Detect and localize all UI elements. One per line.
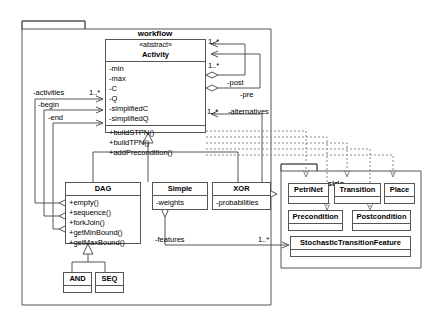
package-label-workflow: workflow xyxy=(105,29,205,38)
class-dag-operations: +empty() +sequence() +forkJoin() +getMin… xyxy=(66,195,140,249)
attribute-probabilities: -probabilities xyxy=(216,198,267,208)
class-and-attributes xyxy=(64,285,91,292)
label-features: -features xyxy=(155,235,185,244)
label-mult-features: 1..* xyxy=(258,235,269,244)
class-stochastic-transition-feature-header: StochasticTransitionFeature xyxy=(291,237,410,249)
label-mult-activities: 1..* xyxy=(89,88,100,97)
label-begin: -begin xyxy=(38,100,59,109)
class-activity-header: «abstract» Activity xyxy=(106,40,205,61)
class-simple-attributes: -weights xyxy=(153,195,207,210)
attribute-max: -max xyxy=(109,74,202,84)
class-precondition-header: Precondition xyxy=(289,211,342,223)
uml-class-diagram: workflow sirio «abstract» Activity -min … xyxy=(0,0,446,324)
operation-buildstpn: +buildSTPN() xyxy=(109,128,202,138)
attribute-weights: -weights xyxy=(156,198,204,208)
class-stochastic-transition-feature[interactable]: StochasticTransitionFeature xyxy=(290,236,411,257)
class-activity-attributes: -min -max -C -Q -simplifiedC -simplified… xyxy=(106,61,205,125)
class-and-header: AND xyxy=(64,273,91,285)
class-xor-header: XOR xyxy=(213,183,270,195)
class-xor-attributes: -probabilities xyxy=(213,195,270,210)
class-postcondition[interactable]: Postcondition xyxy=(352,210,411,231)
class-simple[interactable]: Simple -weights xyxy=(152,182,208,210)
class-place[interactable]: Place xyxy=(384,183,415,204)
class-transition[interactable]: Transition xyxy=(334,183,381,204)
class-activity-stereotype: «abstract» xyxy=(108,41,203,50)
class-precondition[interactable]: Precondition xyxy=(288,210,343,231)
attribute-min: -min xyxy=(109,64,202,74)
attribute-c: -C xyxy=(109,84,202,94)
class-activity-name: Activity xyxy=(142,50,169,59)
class-seq-attributes xyxy=(96,285,123,292)
operation-getminbound: +getMinBound() xyxy=(69,228,137,238)
attribute-simplifiedc: -simplifiedC xyxy=(109,104,202,114)
class-seq-header: SEQ xyxy=(96,273,123,285)
label-activities: -activities xyxy=(33,88,64,97)
class-stochastic-transition-feature-attributes xyxy=(291,249,410,256)
class-seq[interactable]: SEQ xyxy=(95,272,124,293)
class-petrinet-attributes xyxy=(289,196,328,203)
class-petrinet[interactable]: PetriNet xyxy=(288,183,329,204)
dependency-activity-place xyxy=(206,155,393,177)
label-pre: -pre xyxy=(240,90,253,99)
class-xor[interactable]: XOR -probabilities xyxy=(212,182,271,210)
class-activity[interactable]: «abstract» Activity -min -max -C -Q -sim… xyxy=(105,39,206,133)
class-simple-header: Simple xyxy=(153,183,207,195)
attribute-simplifiedq: -simplifiedQ xyxy=(109,114,202,124)
operation-empty: +empty() xyxy=(69,198,137,208)
class-postcondition-attributes xyxy=(353,223,410,230)
attribute-q: -Q xyxy=(109,94,202,104)
operation-getmaxbound: +getMaxBound() xyxy=(69,238,137,248)
class-place-header: Place xyxy=(385,184,414,196)
class-activity-operations: +buildSTPN() +buildTPN() +addPreconditio… xyxy=(106,125,205,160)
label-mult-pre: 1..* xyxy=(208,61,219,70)
class-precondition-attributes xyxy=(289,223,342,230)
class-transition-header: Transition xyxy=(335,184,380,196)
class-postcondition-header: Postcondition xyxy=(353,211,410,223)
class-place-attributes xyxy=(385,196,414,203)
class-dag[interactable]: DAG +empty() +sequence() +forkJoin() +ge… xyxy=(65,182,141,244)
label-mult-alternatives: 1..* xyxy=(207,107,218,116)
dependency-activity-petrinet xyxy=(206,131,306,177)
operation-addprecondition: +addPrecondition() xyxy=(109,148,202,158)
class-transition-attributes xyxy=(335,196,380,203)
operation-buildtpn: +buildTPN() xyxy=(109,138,202,148)
operation-forkjoin: +forkJoin() xyxy=(69,218,137,228)
class-petrinet-header: PetriNet xyxy=(289,184,328,196)
dependency-activity-transition xyxy=(206,143,347,177)
class-dag-header: DAG xyxy=(66,183,140,195)
label-post: -post xyxy=(227,78,244,87)
label-alternatives: -alternatives xyxy=(228,107,269,116)
label-end: -end xyxy=(48,113,63,122)
class-and[interactable]: AND xyxy=(63,272,92,293)
label-mult-post: 1..* xyxy=(208,37,219,46)
operation-sequence: +sequence() xyxy=(69,208,137,218)
